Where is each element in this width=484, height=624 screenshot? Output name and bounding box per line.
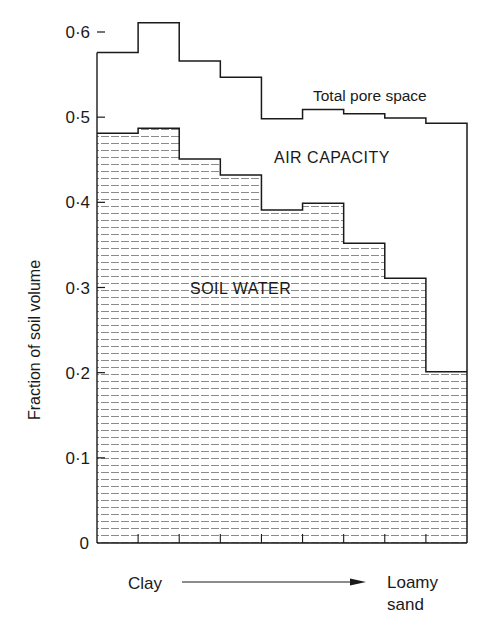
soil-volume-chart: 00·10·20·30·40·50·6 Fraction of soil vol…	[0, 0, 484, 624]
soil-water-area	[97, 128, 467, 543]
arrow-icon	[182, 579, 366, 586]
y-tick-label: 0	[80, 534, 89, 553]
y-tick-label: 0·4	[65, 193, 90, 212]
y-tick-label: 0·3	[65, 279, 90, 298]
x-end-label-line2: sand	[387, 595, 424, 614]
soil-water-fill	[97, 128, 467, 543]
y-tick-label: 0·1	[65, 449, 90, 468]
x-end-label-line1: Loamy	[387, 573, 439, 592]
y-tick-label: 0·6	[65, 23, 90, 42]
air-capacity-label: AIR CAPACITY	[274, 149, 390, 166]
total-pore-space-label: Total pore space	[313, 87, 427, 104]
soil-water-label: SOIL WATER	[190, 280, 291, 297]
y-tick-label: 0·5	[65, 108, 90, 127]
y-axis-label: Fraction of soil volume	[26, 260, 43, 420]
x-start-label: Clay	[128, 574, 163, 593]
y-tick-label: 0·2	[65, 364, 90, 383]
